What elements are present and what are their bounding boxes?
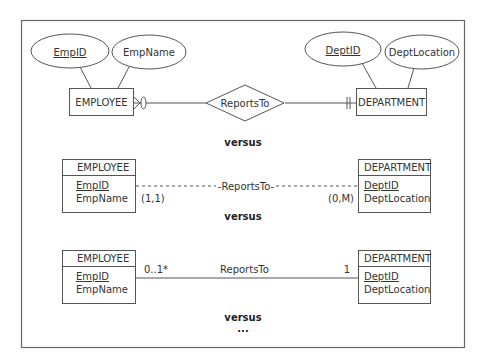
entity-employee-key-2: EmpID (76, 180, 109, 191)
entity-department-label: DEPARTMENT (358, 97, 426, 108)
cardinality-right: (0,M) (328, 193, 354, 204)
entity-department-attr-3: DeptLocation (364, 284, 430, 295)
versus-separator-3: versus (224, 312, 261, 323)
entity-employee-key-3: EmpID (76, 271, 109, 282)
multiplicity-right: 1 (344, 264, 350, 275)
entity-department-title-3: DEPARTMENT (364, 253, 432, 264)
er-notation-comparison-diagram: EmpID EmpName DeptID DeptLocation EMPLOY… (0, 0, 481, 363)
attribute-deptlocation-label: DeptLocation (389, 47, 455, 58)
attribute-empid-label: EmpID (53, 47, 86, 58)
cardinality-left: (1,1) (141, 193, 165, 204)
entity-department-key-3: DeptID (364, 271, 399, 282)
entity-employee-label: EMPLOYEE (75, 97, 127, 108)
relationship-reportsto-label: ReportsTo (221, 98, 270, 109)
association-reportsto-label: ReportsTo (220, 264, 269, 275)
multiplicity-left: 0..1* (144, 264, 168, 275)
versus-separator-1: versus (224, 137, 261, 148)
attribute-deptid-label: DeptID (326, 45, 361, 56)
relationship-reportsto-label-2: -ReportsTo- (218, 181, 275, 192)
entity-department-title-2: DEPARTMENT (364, 162, 432, 173)
entity-employee-title-2: EMPLOYEE (77, 162, 129, 173)
entity-employee-attr-2: EmpName (76, 193, 128, 204)
attribute-empname-label: EmpName (123, 47, 175, 58)
entity-department-key-2: DeptID (364, 180, 399, 191)
versus-separator-2: versus (224, 211, 261, 222)
entity-department-attr-2: DeptLocation (364, 193, 430, 204)
entity-employee-attr-3: EmpName (76, 284, 128, 295)
entity-employee-title-3: EMPLOYEE (77, 253, 129, 264)
ellipsis: ... (237, 323, 248, 334)
